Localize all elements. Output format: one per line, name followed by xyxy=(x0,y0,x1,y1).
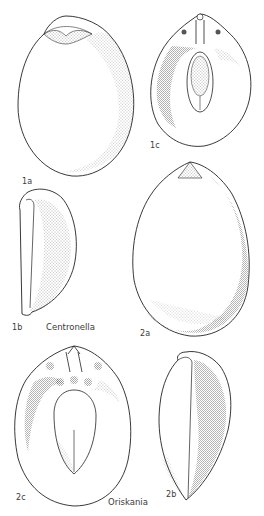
genus-label-oriskania: Oriskania xyxy=(108,497,148,507)
figure-label-2b: 2b xyxy=(166,490,177,499)
figure-label-1b: 1b xyxy=(12,323,23,332)
figure-2b-shell xyxy=(159,352,231,500)
figure-1c-shell xyxy=(151,14,251,146)
figure-label-2a: 2a xyxy=(140,329,150,338)
figure-1a-shell xyxy=(18,16,134,176)
plate-illustrations: 1a 1c 1b Centronella 2a xyxy=(0,0,264,516)
figure-label-1c: 1c xyxy=(150,141,160,150)
figure-2c-shell xyxy=(15,346,131,506)
figure-2a-shell xyxy=(133,162,249,336)
figure-label-1a: 1a xyxy=(22,177,32,186)
figure-label-2c: 2c xyxy=(16,493,26,502)
fossil-plate: 1a 1c 1b Centronella 2a xyxy=(0,0,264,516)
figure-1b-shell xyxy=(19,189,76,315)
genus-label-centronella: Centronella xyxy=(46,322,95,332)
